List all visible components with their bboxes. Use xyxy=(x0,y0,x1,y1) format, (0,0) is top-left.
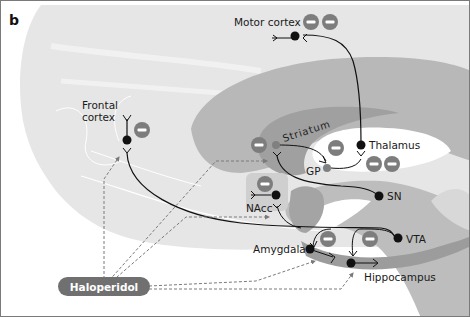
amygdala-neuron xyxy=(306,245,315,254)
label-sn: SN xyxy=(387,190,402,202)
diagram-frame: b xyxy=(0,0,470,317)
hippocampus-neuron xyxy=(347,259,356,268)
label-amygdala: Amygdala xyxy=(253,243,306,255)
label-thalamus: Thalamus xyxy=(368,139,420,151)
inhibition-icon xyxy=(322,14,338,30)
brain-pathway-diagram: b xyxy=(1,1,470,317)
vta-neuron xyxy=(394,234,403,243)
sn-neuron xyxy=(375,192,384,201)
inhibition-icon xyxy=(328,140,344,156)
label-vta: VTA xyxy=(406,233,427,245)
inhibition-icon xyxy=(366,156,382,172)
label-nacc: NAcc xyxy=(246,202,273,214)
frontal-cortex-neuron xyxy=(123,136,132,145)
label-frontal-cortex-1: Frontal xyxy=(82,99,118,111)
inhibition-icon xyxy=(303,14,319,30)
inhibition-icon xyxy=(257,176,273,192)
inhibition-icon xyxy=(134,122,150,138)
label-gp: GP xyxy=(306,165,320,177)
haloperidol-label: Haloperidol xyxy=(70,281,138,293)
label-hippocampus: Hippocampus xyxy=(364,271,436,283)
thalamus-neuron xyxy=(357,141,366,150)
label-motor-cortex: Motor cortex xyxy=(234,16,301,28)
panel-label: b xyxy=(9,12,19,28)
inhibition-icon xyxy=(384,156,400,172)
nacc-neuron xyxy=(272,191,281,200)
label-frontal-cortex-2: cortex xyxy=(82,111,115,123)
gp-neuron xyxy=(323,164,331,172)
inhibition-icon xyxy=(362,231,378,247)
inhibition-icon xyxy=(251,137,267,153)
motor-cortex-neuron xyxy=(291,32,300,41)
inhibition-icon xyxy=(320,231,336,247)
striatum-neuron xyxy=(272,141,280,149)
